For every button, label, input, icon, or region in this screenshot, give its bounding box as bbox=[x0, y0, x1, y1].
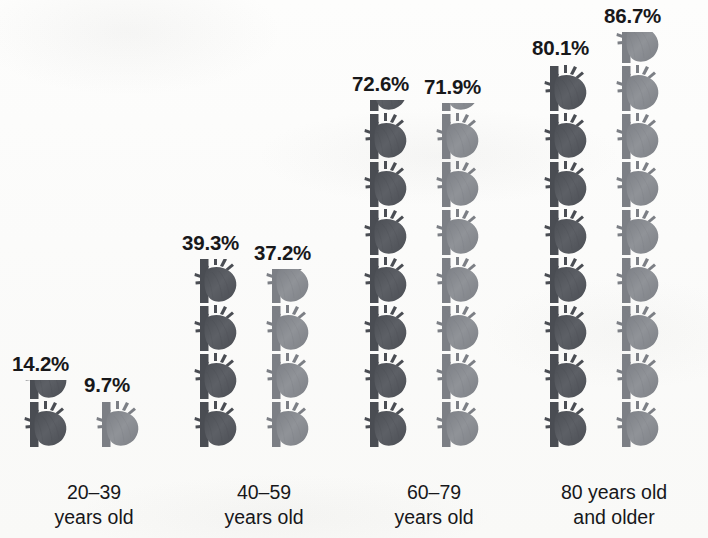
percentage-label-col-40-59-b: 37.2% bbox=[254, 241, 311, 265]
heart-icon bbox=[544, 400, 590, 448]
pictogram-column-col-60-79-b bbox=[436, 103, 482, 448]
age-group-group-40-59: 39.3% bbox=[170, 0, 358, 538]
heart-icon bbox=[544, 256, 590, 304]
heart-icon bbox=[616, 64, 662, 112]
heart-icon bbox=[266, 400, 312, 448]
heart-icon bbox=[544, 160, 590, 208]
heart-icon bbox=[616, 256, 662, 304]
group-label-line2: years old bbox=[340, 505, 528, 530]
heart-icon bbox=[436, 208, 482, 256]
percentage-label-col-60-79-a: 72.6% bbox=[352, 72, 409, 96]
heart-icon bbox=[544, 112, 590, 160]
heart-icon bbox=[544, 208, 590, 256]
partial-heart-icon bbox=[364, 100, 410, 112]
age-group-group-60-79: 72.6% bbox=[340, 0, 528, 538]
group-label-line2: years old bbox=[170, 505, 358, 530]
heart-icon bbox=[364, 208, 410, 256]
pictogram-column-col-40-59-a bbox=[194, 259, 240, 448]
group-label-line1: 80 years old bbox=[520, 480, 708, 505]
pictogram-column-col-80-plus-b bbox=[616, 32, 662, 448]
partial-heart-icon bbox=[194, 259, 240, 304]
pictogram-chart: 14.2% 9.7%20–39years old bbox=[0, 0, 708, 538]
heart-icon bbox=[544, 64, 590, 112]
heart-icon bbox=[364, 352, 410, 400]
percentage-label-col-20-39-a: 14.2% bbox=[12, 352, 69, 376]
pictogram-column-col-20-39-a bbox=[24, 380, 70, 448]
percentage-label-col-20-39-b: 9.7% bbox=[84, 373, 130, 397]
pictogram-column-col-80-plus-a bbox=[544, 64, 590, 448]
percentage-label-col-80-plus-a: 80.1% bbox=[532, 36, 589, 60]
heart-icon bbox=[436, 160, 482, 208]
pictogram-column-col-60-79-a bbox=[364, 100, 410, 448]
percentage-label-col-80-plus-b: 86.7% bbox=[604, 4, 661, 28]
group-label-group-60-79: 60–79years old bbox=[340, 480, 528, 530]
group-label-line2: years old bbox=[0, 505, 188, 530]
heart-icon bbox=[544, 352, 590, 400]
partial-heart-icon bbox=[436, 103, 482, 112]
partial-heart-icon bbox=[24, 380, 70, 400]
age-group-group-20-39: 14.2% 9.7%20–39years old bbox=[0, 0, 188, 538]
group-label-line1: 40–59 bbox=[170, 480, 358, 505]
pictogram-column-col-40-59-b bbox=[266, 269, 312, 448]
group-label-line1: 20–39 bbox=[0, 480, 188, 505]
heart-icon bbox=[194, 352, 240, 400]
heart-icon bbox=[364, 304, 410, 352]
group-label-group-40-59: 40–59years old bbox=[170, 480, 358, 530]
group-label-line2: and older bbox=[520, 505, 708, 530]
partial-heart-icon bbox=[96, 401, 142, 448]
group-label-group-20-39: 20–39years old bbox=[0, 480, 188, 530]
percentage-label-col-40-59-a: 39.3% bbox=[182, 231, 239, 255]
heart-icon bbox=[364, 256, 410, 304]
heart-icon bbox=[436, 112, 482, 160]
heart-icon bbox=[544, 304, 590, 352]
group-label-line1: 60–79 bbox=[340, 480, 528, 505]
heart-icon bbox=[616, 352, 662, 400]
heart-icon bbox=[616, 160, 662, 208]
heart-icon bbox=[364, 112, 410, 160]
heart-icon bbox=[436, 400, 482, 448]
heart-icon bbox=[194, 304, 240, 352]
percentage-label-col-60-79-b: 71.9% bbox=[424, 75, 481, 99]
heart-icon bbox=[194, 400, 240, 448]
heart-icon bbox=[436, 352, 482, 400]
pictogram-column-col-20-39-b bbox=[96, 401, 142, 448]
age-group-group-80-plus: 80.1% bbox=[520, 0, 708, 538]
heart-icon bbox=[24, 400, 70, 448]
heart-icon bbox=[364, 160, 410, 208]
heart-icon bbox=[616, 112, 662, 160]
partial-heart-icon bbox=[266, 269, 312, 304]
heart-icon bbox=[364, 400, 410, 448]
heart-icon bbox=[616, 400, 662, 448]
heart-icon bbox=[436, 256, 482, 304]
heart-icon bbox=[616, 304, 662, 352]
group-label-group-80-plus: 80 years oldand older bbox=[520, 480, 708, 530]
heart-icon bbox=[266, 304, 312, 352]
heart-icon bbox=[616, 208, 662, 256]
heart-icon bbox=[436, 304, 482, 352]
partial-heart-icon bbox=[616, 32, 662, 64]
heart-icon bbox=[266, 352, 312, 400]
